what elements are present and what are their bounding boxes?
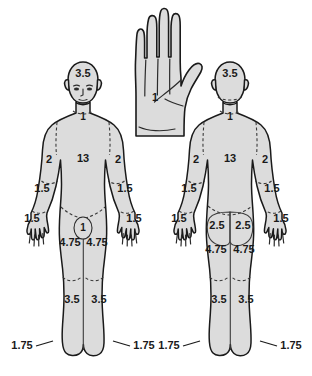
posterior-hand-left-value: 1.5 bbox=[171, 212, 186, 224]
anterior-foot-leader-left bbox=[36, 341, 53, 346]
anterior-upper-arm-right-value: 2 bbox=[115, 153, 121, 165]
anterior-foot-left-value: 1.75 bbox=[11, 339, 32, 351]
posterior-hand-right-value: 1.5 bbox=[273, 212, 288, 224]
posterior-ear-right bbox=[244, 80, 248, 90]
posterior-foot-right-value: 1.75 bbox=[280, 339, 301, 351]
anterior-upper-arm-left-value: 2 bbox=[46, 153, 52, 165]
anterior-neck-value: 1 bbox=[80, 111, 86, 122]
posterior-leg-left-value: 3.5 bbox=[211, 293, 226, 305]
anterior-leg-left-value: 3.5 bbox=[64, 293, 79, 305]
posterior-forearm-right-value: 1.5 bbox=[264, 182, 279, 194]
posterior-thigh-right-value: 4.75 bbox=[233, 243, 254, 255]
posterior-buttock-left-value: 2.5 bbox=[209, 219, 224, 231]
anterior-ear-left bbox=[65, 80, 69, 90]
posterior-neck-value: 1 bbox=[227, 111, 233, 122]
posterior-thigh-left-value: 4.75 bbox=[205, 243, 226, 255]
hand-reference-group: 1 bbox=[135, 8, 202, 136]
anterior-figure-group: 3.5 1 13 2 2 1.5 1.5 1.5 1.5 1 4.75 4.75… bbox=[11, 62, 154, 356]
posterior-leg-right-value: 3.5 bbox=[238, 293, 253, 305]
anterior-foot-right-value: 1.75 bbox=[133, 339, 154, 351]
anterior-head-value: 3.5 bbox=[75, 67, 90, 79]
anterior-forearm-right-value: 1.5 bbox=[117, 182, 132, 194]
anterior-ear-right bbox=[97, 80, 101, 90]
anterior-genitalia-value: 1 bbox=[80, 222, 86, 233]
posterior-foot-leader-left bbox=[183, 341, 200, 346]
posterior-forearm-left-value: 1.5 bbox=[181, 182, 196, 194]
posterior-head-value: 3.5 bbox=[222, 67, 237, 79]
anterior-hand-right-value: 1.5 bbox=[126, 212, 141, 224]
posterior-upper-arm-left-value: 2 bbox=[193, 153, 199, 165]
anterior-trunk-value: 13 bbox=[77, 152, 89, 164]
anterior-eye-right bbox=[87, 88, 92, 91]
finger-crease-2 bbox=[157, 59, 158, 95]
anterior-forearm-left-value: 1.5 bbox=[34, 182, 49, 194]
posterior-trunk-value: 13 bbox=[224, 152, 236, 164]
posterior-upper-arm-right-value: 2 bbox=[262, 153, 268, 165]
anterior-foot-leader-right bbox=[113, 341, 130, 346]
anterior-thigh-right-value: 4.75 bbox=[86, 236, 107, 248]
posterior-ear-left bbox=[212, 80, 216, 90]
posterior-foot-left-value: 1.75 bbox=[158, 339, 179, 351]
hand-value: 1 bbox=[152, 91, 158, 103]
posterior-buttock-right-value: 2.5 bbox=[235, 219, 250, 231]
diagram-canvas: 1 bbox=[0, 0, 312, 376]
anterior-hand-left-value: 1.5 bbox=[24, 212, 39, 224]
posterior-foot-leader-right bbox=[260, 341, 277, 346]
anterior-thigh-left-value: 4.75 bbox=[59, 236, 80, 248]
body-surface-area-diagram: 1 bbox=[0, 0, 312, 376]
anterior-eye-left bbox=[74, 88, 79, 91]
anterior-leg-right-value: 3.5 bbox=[91, 293, 106, 305]
